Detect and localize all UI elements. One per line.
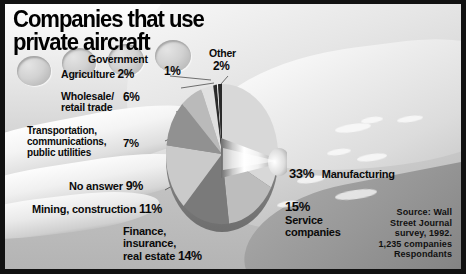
source-line-3: survey, 1992. [378, 228, 452, 239]
label-wholesale-name-line-1: Wholesale/ [61, 90, 114, 102]
label-agriculture: Agriculture 2% [61, 68, 134, 81]
label-service-line-1: Service [285, 214, 323, 226]
infographic-container: Companies that use private aircraft Gove… [0, 0, 466, 274]
label-transportation: Transportation, communications, 7% publi… [27, 126, 106, 158]
label-transportation-pct: 7% [123, 137, 139, 149]
label-mining-pct: 11% [139, 202, 162, 216]
label-manufacturing-pct: 33% [289, 166, 314, 181]
label-finance-line-1: Finance, [123, 225, 166, 237]
label-finance-line-3: real estate [123, 250, 175, 262]
porthole-window-icon [17, 56, 51, 86]
label-no-answer: No answer 9% [69, 180, 143, 193]
source-line-4: 1,235 companies [378, 239, 452, 250]
source-line-1: Source: Wall [378, 207, 452, 218]
pie-chart-svg [157, 66, 287, 234]
label-no-answer-name: No answer [69, 180, 123, 192]
label-other: Other 2% [209, 48, 236, 59]
pie-chart [157, 66, 287, 234]
label-manufacturing: 33% Manufacturing [289, 167, 395, 181]
label-service-line-2: companies [285, 226, 341, 238]
label-agriculture-name: Agriculture [61, 68, 115, 80]
label-wholesale-name-line-2: retail trade [61, 101, 112, 113]
label-agriculture-pct: 2% [118, 67, 134, 81]
label-other-name: Other [209, 47, 236, 59]
label-mining-name: Mining, construction [32, 203, 136, 215]
title-line-2: private aircraft [13, 31, 204, 54]
infographic-canvas: Companies that use private aircraft Gove… [5, 4, 461, 269]
label-government-pct: 1% [164, 65, 180, 78]
label-finance-insurance: Finance, insurance, real estate 14% [123, 226, 202, 263]
source-line-5: Respondants [378, 249, 452, 260]
label-mining-construction: Mining, construction 11% [32, 203, 162, 216]
label-transportation-line-1: Transportation, [27, 125, 97, 136]
label-finance-pct: 14% [178, 249, 202, 263]
label-wholesale-retail: Wholesale/ 6% retail trade [61, 91, 114, 114]
page-title: Companies that use private aircraft [13, 8, 204, 54]
label-no-answer-pct: 9% [126, 179, 143, 193]
label-transportation-line-3: public utilities [27, 147, 91, 158]
label-service-pct: 15% [285, 200, 341, 214]
label-transportation-line-2: communications, [27, 136, 106, 147]
label-manufacturing-name: Manufacturing [322, 168, 395, 180]
label-finance-line-2: insurance, [123, 237, 176, 249]
label-government: Government 1% [88, 54, 148, 65]
source-note: Source: Wall Street Journal survey, 1992… [378, 207, 452, 260]
label-wholesale-pct: 6% [123, 91, 139, 104]
label-government-name: Government [88, 53, 148, 65]
label-service-companies: 15% Service companies [285, 200, 341, 239]
label-other-pct: 2% [213, 60, 229, 73]
source-line-2: Street Journal [378, 218, 452, 229]
